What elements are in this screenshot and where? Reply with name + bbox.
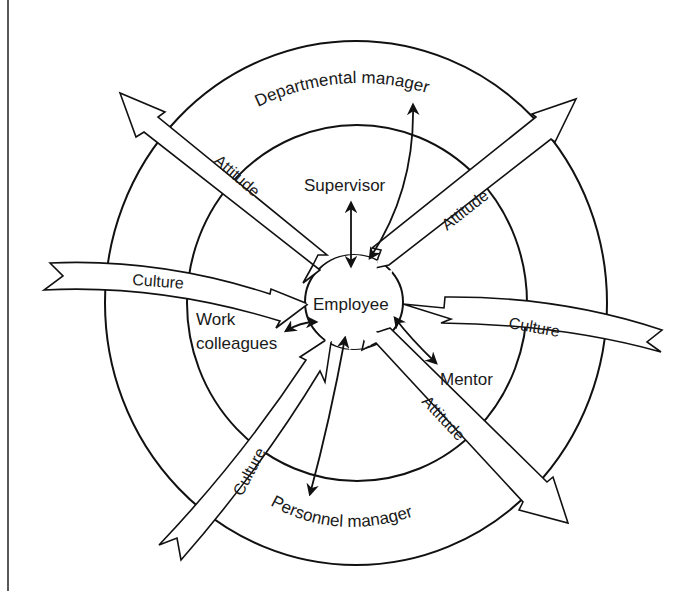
- culture-arrow-right: Culture: [403, 297, 662, 352]
- attitude-arrow-upper-right: Attitude: [372, 99, 576, 268]
- personnel-manager-label: Personnel manager: [268, 492, 415, 531]
- attitude-arrow-lower-right: Attitude: [362, 328, 568, 523]
- diagram-canvas: Attitude Attitude Attitude Culture Cultu…: [0, 0, 694, 591]
- culture-label-left: Culture: [132, 271, 185, 292]
- culture-arrow-left: Culture: [44, 262, 308, 328]
- supervisor-label: Supervisor: [304, 176, 386, 195]
- mentor-label: Mentor: [440, 370, 493, 389]
- culture-arrow-lower-left: Culture: [159, 336, 332, 560]
- attitude-arrow-upper-left: Attitude: [120, 93, 327, 283]
- work-colleagues-label-line2: colleagues: [196, 334, 277, 353]
- employee-label: Employee: [313, 295, 389, 314]
- departmental-manager-label: Departmental manager: [252, 68, 432, 111]
- work-colleagues-label-line1: Work: [196, 310, 236, 329]
